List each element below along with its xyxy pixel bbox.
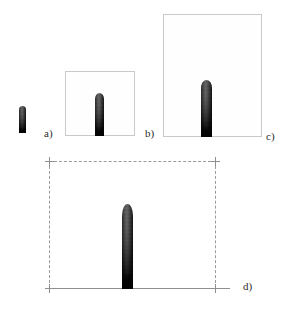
tick-bottom-left-horizontal	[45, 288, 54, 289]
panel-d-left-dashed-edge	[49, 161, 50, 288]
panel-d-right-dashed-edge	[215, 161, 216, 288]
panel-label-c: c)	[266, 131, 275, 142]
panel-c-jet-object	[201, 80, 212, 137]
jet-highlight	[200, 79, 213, 138]
panel-d-baseline	[49, 288, 230, 289]
figure-canvas: a) b) c)	[0, 0, 288, 313]
tick-top-right-horizontal	[211, 161, 220, 162]
tick-top-left-horizontal	[45, 161, 54, 162]
panel-a-jet-object	[19, 106, 26, 133]
panel-label-d: d)	[243, 281, 252, 292]
panel-d-top-dashed-edge	[49, 161, 216, 162]
panel-label-a: a)	[44, 128, 53, 139]
tick-bottom-right-vertical	[215, 284, 216, 293]
jet-highlight	[94, 92, 105, 137]
panel-label-b: b)	[145, 128, 154, 139]
panel-b-jet-object	[95, 93, 104, 136]
jet-highlight	[18, 105, 27, 134]
panel-d-jet-object	[122, 204, 133, 289]
jet-highlight	[121, 203, 134, 290]
